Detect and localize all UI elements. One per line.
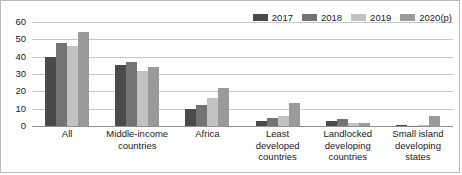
bar-group [243,22,313,126]
legend-item-2017[interactable]: 2017 [253,13,293,23]
legend-item-2020p[interactable]: 2020(p) [400,13,452,23]
bar[interactable] [289,103,300,126]
bar[interactable] [267,118,278,126]
x-axis-label: Least developed countries [243,128,313,163]
x-axis-label: Small island developing states [383,128,453,163]
bar[interactable] [137,71,148,126]
plot-area [32,22,453,126]
bar[interactable] [45,57,56,126]
bar[interactable] [115,65,126,126]
y-tick-label: 0 [21,121,26,131]
bar[interactable] [126,62,137,126]
bar[interactable] [196,105,207,126]
gridline-0 [32,126,453,127]
y-tick-label: 50 [15,35,26,45]
chart-legend: 2017201820192020(p) [253,13,452,23]
y-tick-label: 10 [15,104,26,114]
legend-item-2018[interactable]: 2018 [302,13,342,23]
legend-swatch-icon [253,14,268,21]
bar[interactable] [256,121,267,126]
legend-label: 2017 [272,13,293,23]
bar[interactable] [67,46,78,126]
bar[interactable] [185,109,196,126]
legend-label: 2020(p) [419,13,452,23]
bar-group [172,22,242,126]
bar[interactable] [429,116,440,126]
x-axis-label: Africa [172,128,242,163]
bar-group [383,22,453,126]
y-tick-label: 20 [15,87,26,97]
bar[interactable] [326,121,337,126]
x-axis-label: Landlocked developing countries [313,128,383,163]
bar[interactable] [337,119,348,126]
bar-group [102,22,172,126]
legend-label: 2019 [370,13,391,23]
y-tick-label: 60 [15,17,26,27]
x-axis-label: All [32,128,102,163]
bar[interactable] [278,116,289,126]
legend-swatch-icon [302,14,317,21]
x-axis-label: Middle-income countries [102,128,172,163]
legend-label: 2018 [321,13,342,23]
bar-group [313,22,383,126]
bar[interactable] [207,98,218,126]
bar[interactable] [348,123,359,126]
bar[interactable] [359,123,370,126]
legend-item-2019[interactable]: 2019 [351,13,391,23]
legend-swatch-icon [351,14,366,21]
bar[interactable] [78,32,89,126]
y-tick-label: 40 [15,52,26,62]
bar[interactable] [56,43,67,126]
bar-group [32,22,102,126]
bar-groups [32,22,453,126]
legend-swatch-icon [400,14,415,21]
x-axis-category-labels: AllMiddle-income countriesAfricaLeast de… [32,128,453,163]
y-axis-tick-labels: 0102030405060 [1,22,29,126]
bar[interactable] [148,67,159,126]
chart-figure: 2017201820192020(p) 0102030405060 AllMid… [0,0,460,173]
y-tick-label: 30 [15,69,26,79]
bar[interactable] [396,125,407,126]
bar[interactable] [418,125,429,126]
bar[interactable] [218,88,229,126]
